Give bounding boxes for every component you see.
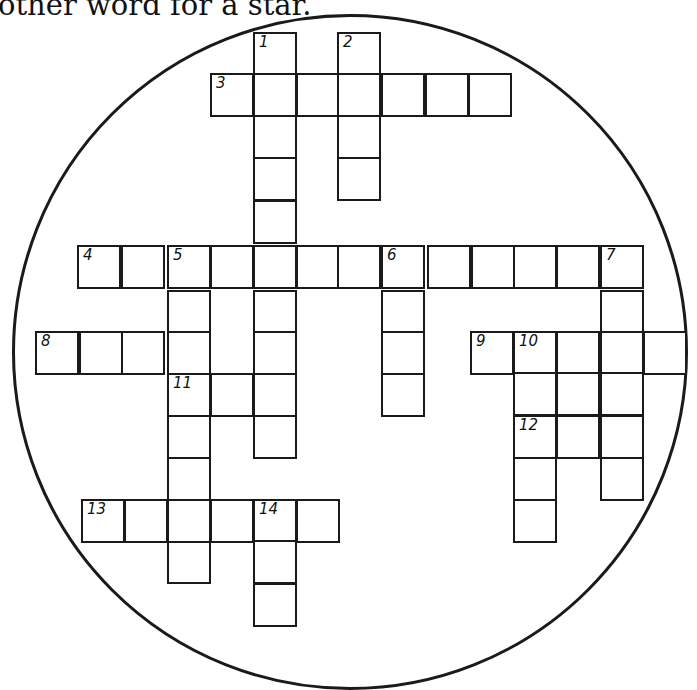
crossword-cell[interactable]: 7 <box>600 245 644 289</box>
crossword-cell[interactable] <box>600 415 644 459</box>
crossword-cell[interactable] <box>210 245 254 289</box>
crossword-cell[interactable] <box>79 331 123 375</box>
crossword-cell[interactable] <box>381 73 425 117</box>
crossword-cell[interactable] <box>253 583 297 627</box>
crossword-cell[interactable]: 3 <box>210 73 254 117</box>
crossword-cell[interactable] <box>121 245 165 289</box>
crossword-cell[interactable] <box>296 499 340 543</box>
crossword-cell[interactable] <box>425 73 469 117</box>
crossword-cell[interactable]: 11 <box>167 373 211 417</box>
crossword-cell[interactable]: 1 <box>253 32 297 76</box>
crossword-cell[interactable] <box>468 73 512 117</box>
crossword-cell[interactable] <box>253 290 297 334</box>
crossword-cell[interactable] <box>381 290 425 334</box>
crossword-cell[interactable] <box>643 331 687 375</box>
clue-number: 13 <box>87 502 106 517</box>
crossword-cell[interactable] <box>513 372 557 416</box>
crossword-cell[interactable] <box>167 415 211 459</box>
crossword-cell[interactable] <box>296 245 340 289</box>
crossword-cell[interactable]: 13 <box>81 499 125 543</box>
crossword-cell[interactable] <box>253 157 297 201</box>
crossword-cell[interactable] <box>167 540 211 584</box>
clue-number: 14 <box>259 502 278 517</box>
crossword-cell[interactable]: 10 <box>513 331 557 375</box>
crossword-cell[interactable] <box>167 499 211 543</box>
crossword-cell[interactable] <box>556 245 600 289</box>
crossword-cell[interactable] <box>210 499 254 543</box>
clue-number: 3 <box>216 76 226 91</box>
clue-number: 11 <box>173 376 192 391</box>
crossword-cell[interactable] <box>513 457 557 501</box>
crossword-cell[interactable]: 4 <box>77 245 121 289</box>
crossword-cell[interactable] <box>253 73 297 117</box>
clue-number: 4 <box>83 248 93 263</box>
crossword-cell[interactable] <box>600 457 644 501</box>
clue-number: 7 <box>606 248 616 263</box>
crossword-cell[interactable] <box>556 331 600 375</box>
crossword-cell[interactable] <box>427 245 471 289</box>
crossword-cell[interactable] <box>253 200 297 244</box>
crossword-cell[interactable] <box>381 331 425 375</box>
crossword-cell[interactable] <box>253 331 297 375</box>
crossword-cell[interactable]: 12 <box>513 415 557 459</box>
crossword-cell[interactable]: 8 <box>35 331 79 375</box>
crossword-cell[interactable] <box>124 499 168 543</box>
crossword-cell[interactable] <box>167 290 211 334</box>
clue-number: 6 <box>387 248 397 263</box>
crossword-cell[interactable]: 6 <box>381 245 425 289</box>
crossword-cell[interactable] <box>337 157 381 201</box>
crossword-cell[interactable] <box>337 245 381 289</box>
clue-number: 12 <box>519 418 538 433</box>
crossword-cell[interactable] <box>253 245 297 289</box>
clue-number: 1 <box>259 35 269 50</box>
crossword-cell[interactable] <box>600 331 644 375</box>
crossword-cell[interactable] <box>556 372 600 416</box>
crossword-cell[interactable]: 5 <box>167 245 211 289</box>
crossword-cell[interactable] <box>381 373 425 417</box>
clue-number: 9 <box>476 334 486 349</box>
crossword-cell[interactable] <box>167 457 211 501</box>
crossword-cell[interactable] <box>337 115 381 159</box>
crossword-cell[interactable] <box>556 415 600 459</box>
crossword-cell[interactable]: 14 <box>253 499 297 543</box>
crossword-cell[interactable] <box>471 245 515 289</box>
crossword-cell[interactable] <box>513 245 557 289</box>
crossword-cell[interactable] <box>210 373 254 417</box>
clue-number: 2 <box>343 35 353 50</box>
crossword-cell[interactable] <box>253 540 297 584</box>
crossword-cell[interactable] <box>121 331 165 375</box>
crossword-cell[interactable] <box>513 499 557 543</box>
clue-number: 10 <box>519 334 538 349</box>
crossword-cell[interactable] <box>296 73 340 117</box>
clue-number: 8 <box>41 334 51 349</box>
crossword-cell[interactable]: 9 <box>470 331 514 375</box>
crossword-cell[interactable] <box>337 73 381 117</box>
crossword-cell[interactable] <box>253 415 297 459</box>
crossword-cell[interactable] <box>600 372 644 416</box>
crossword-cell[interactable] <box>253 373 297 417</box>
crossword-cell[interactable] <box>600 290 644 334</box>
crossword-cell[interactable]: 2 <box>337 32 381 76</box>
crossword-cell[interactable] <box>253 115 297 159</box>
crossword-cell[interactable] <box>167 331 211 375</box>
clue-number: 5 <box>173 248 183 263</box>
